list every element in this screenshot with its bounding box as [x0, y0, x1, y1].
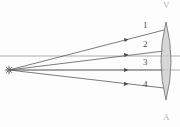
ray-arrowhead-group	[124, 38, 129, 86]
bottom-axis-mark: A	[163, 113, 170, 122]
ray-diagram-canvas	[0, 0, 180, 127]
point-source-icon	[5, 66, 14, 75]
ray-4-arrowhead-icon	[124, 82, 129, 86]
ray-label-1: 1	[143, 21, 148, 30]
ray-4-line	[9, 70, 164, 88]
ray-group	[9, 30, 164, 88]
ray-label-3: 3	[143, 58, 148, 67]
ray-3-arrowhead-icon	[124, 68, 128, 72]
ray-1-line	[9, 30, 164, 70]
ray-label-2: 2	[143, 40, 148, 49]
biconvex-lens	[161, 22, 171, 100]
lens-body	[161, 22, 171, 100]
ray-label-4: 4	[143, 80, 148, 89]
ray-2-line	[9, 51, 164, 70]
optics-figure: 1 2 3 4 V A	[0, 0, 180, 127]
ray-1-arrowhead-icon	[124, 38, 128, 42]
top-axis-mark: V	[163, 1, 170, 10]
